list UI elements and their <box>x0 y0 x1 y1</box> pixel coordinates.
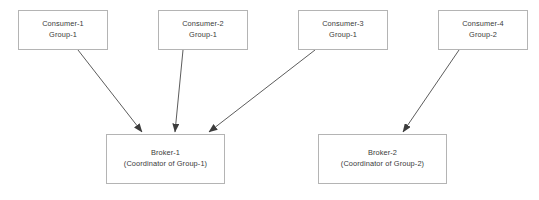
consumer-3-group: Group-1 <box>329 30 357 41</box>
node-broker-1[interactable]: Broker-1 (Coordinator of Group-1) <box>106 134 225 184</box>
diagram-canvas: Consumer-1 Group-1 Consumer-2 Group-1 Co… <box>0 0 539 200</box>
consumer-2-name: Consumer-2 <box>182 19 224 30</box>
broker-2-role: (Coordinator of Group-2) <box>341 159 424 170</box>
node-consumer-4[interactable]: Consumer-4 Group-2 <box>438 10 528 50</box>
edge-consumer-4-broker-2 <box>403 50 459 132</box>
node-consumer-1[interactable]: Consumer-1 Group-1 <box>18 10 108 50</box>
edge-consumer-3-broker-1 <box>209 50 315 132</box>
consumer-3-name: Consumer-3 <box>322 19 364 30</box>
broker-1-role: (Coordinator of Group-1) <box>124 159 207 170</box>
node-consumer-3[interactable]: Consumer-3 Group-1 <box>298 10 388 50</box>
node-consumer-2[interactable]: Consumer-2 Group-1 <box>158 10 248 50</box>
edge-consumer-1-broker-1 <box>78 50 142 132</box>
consumer-4-group: Group-2 <box>469 30 497 41</box>
consumer-1-group: Group-1 <box>49 30 77 41</box>
consumer-2-group: Group-1 <box>189 30 217 41</box>
broker-2-name: Broker-2 <box>368 148 397 159</box>
broker-1-name: Broker-1 <box>151 148 180 159</box>
consumer-4-name: Consumer-4 <box>462 19 504 30</box>
consumer-1-name: Consumer-1 <box>42 19 84 30</box>
edge-consumer-2-broker-1 <box>175 50 183 132</box>
node-broker-2[interactable]: Broker-2 (Coordinator of Group-2) <box>318 134 447 184</box>
